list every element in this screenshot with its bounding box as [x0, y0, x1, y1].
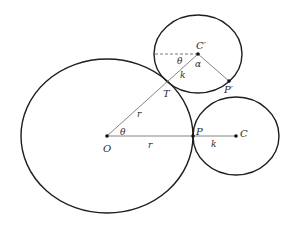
label-r-horizontal: r: [148, 140, 153, 150]
point-C: [234, 134, 238, 138]
label-C: C: [240, 128, 248, 139]
label-r-slanted: r: [137, 109, 142, 119]
point-P: [191, 134, 195, 138]
segment-C-prime-P-prime: [198, 54, 229, 81]
point-C-prime: [196, 52, 200, 56]
label-T: T: [163, 88, 171, 99]
point-P-prime: [227, 79, 231, 83]
segment-O-C-prime: [107, 54, 198, 136]
label-theta-top: θ: [177, 56, 183, 66]
label-alpha: α: [195, 59, 201, 69]
label-theta-origin: θ: [120, 127, 126, 137]
label-k-horizontal: k: [211, 139, 216, 149]
label-O: O: [103, 143, 111, 154]
label-k-slanted: k: [180, 70, 185, 80]
label-C-prime: C′: [196, 40, 207, 51]
label-P-prime: P′: [223, 84, 234, 95]
point-O: [105, 134, 109, 138]
epicycloid-diagram: O P C C′ P′ T θ θ α r r k k: [0, 0, 295, 228]
label-P: P: [195, 126, 203, 137]
